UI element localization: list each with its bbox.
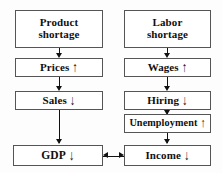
node-prices[interactable]: Prices ↑	[15, 58, 103, 77]
node-gdp[interactable]: GDP ↓	[13, 145, 103, 166]
node-wages-label: Wages	[148, 62, 179, 74]
node-sales[interactable]: Sales ↓	[15, 91, 103, 110]
node-unemployment-trend-icon: ↑	[200, 117, 205, 130]
node-sales-label: Sales	[43, 95, 67, 107]
node-wages-trend-icon: ↑	[182, 60, 188, 74]
node-labor-shortage-line2: shortage	[147, 29, 188, 41]
edge-unemployment-to-income-arrowhead	[164, 139, 170, 144]
node-product-shortage-line2: shortage	[38, 29, 79, 41]
node-sales-trend-icon: ↓	[70, 93, 76, 107]
node-gdp-trend-icon: ↓	[69, 148, 75, 163]
node-hiring-label: Hiring	[147, 95, 179, 107]
node-hiring-trend-icon: ↓	[182, 93, 188, 107]
node-income-trend-icon: ↓	[184, 148, 190, 162]
node-hiring[interactable]: Hiring ↓	[124, 91, 211, 110]
node-income-label: Income	[145, 150, 180, 162]
node-unemployment[interactable]: Unemployment ↑	[124, 114, 211, 133]
node-labor-shortage[interactable]: Labor shortage	[124, 10, 211, 48]
node-income[interactable]: Income ↓	[124, 145, 211, 166]
edge-income-to-gdp-tailhead	[119, 152, 124, 158]
node-gdp-label: GDP	[41, 149, 66, 161]
node-prices-label: Prices	[40, 62, 69, 74]
edge-income-to-gdp-arrowhead	[103, 152, 108, 158]
flowchart-canvas: Product shortage Prices ↑ Sales ↓ GDP ↓ …	[0, 0, 222, 173]
node-prices-trend-icon: ↑	[72, 60, 78, 74]
node-wages[interactable]: Wages ↑	[124, 58, 211, 77]
edge-sales-to-gdp-arrowhead	[56, 139, 62, 144]
node-product-shortage[interactable]: Product shortage	[15, 10, 103, 48]
node-unemployment-label: Unemployment	[129, 118, 197, 129]
